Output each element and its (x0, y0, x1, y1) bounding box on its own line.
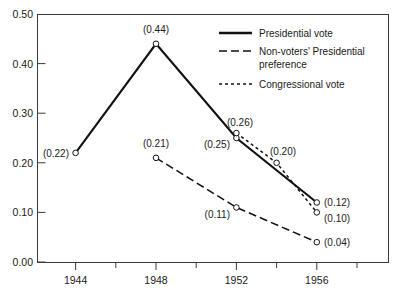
legend-item-nonvoters-preference: Non-voters' Presidential preference (219, 46, 365, 70)
y-tick-label: 0.00 (13, 256, 34, 268)
y-tick-group-3: 0.30 (13, 107, 46, 119)
y-tick-label: 0.50 (13, 8, 34, 20)
data-point-marker (153, 41, 159, 47)
x-tick-group-2: 1952 (225, 262, 249, 286)
chart-legend: Presidential vote Non-voters' Presidenti… (219, 28, 365, 90)
line-chart: 0.00 0.10 0.20 0.30 0.40 0.50 (0, 0, 402, 297)
y-tick-group-5: 0.50 (13, 8, 34, 20)
y-tick-group-4: 0.40 (13, 58, 46, 70)
x-tick-label: 1956 (305, 274, 329, 286)
legend-item-congressional-vote: Congressional vote (219, 79, 345, 90)
y-tick-label: 0.30 (13, 107, 34, 119)
data-point-marker (314, 200, 320, 206)
y-axis: 0.00 0.10 0.20 0.30 0.40 0.50 (13, 8, 46, 268)
x-tick-group-0: 1944 (64, 262, 88, 286)
data-point-label: (0.22) (43, 148, 69, 159)
data-point-marker (314, 239, 320, 245)
data-point-label: (0.10) (324, 213, 350, 224)
nonvoters-preference-line (156, 158, 317, 242)
x-tick-group-3: 1956 (305, 262, 329, 286)
data-point-label: (0.12) (324, 197, 350, 208)
x-tick-label: 1952 (225, 274, 249, 286)
legend-label: Presidential vote (259, 28, 333, 39)
data-point-label: (0.20) (270, 146, 296, 157)
x-tick-label: 1948 (144, 274, 168, 286)
data-point-label: (0.26) (227, 117, 253, 128)
data-point-marker (234, 205, 240, 211)
legend-item-presidential-vote: Presidential vote (219, 28, 333, 39)
legend-label: Non-voters' Presidential (259, 46, 365, 57)
y-tick-label: 0.20 (13, 157, 34, 169)
y-tick-label: 0.40 (13, 58, 34, 70)
x-tick-group-1: 1948 (144, 262, 168, 286)
data-point-marker (274, 160, 280, 166)
congressional-vote-line (236, 133, 316, 212)
data-point-marker (234, 130, 240, 136)
x-tick-label: 1944 (64, 274, 88, 286)
x-axis: 1944 1948 1952 1956 (64, 262, 357, 286)
y-tick-group-0: 0.00 (13, 256, 46, 268)
y-tick-label: 0.10 (13, 206, 34, 218)
data-point-marker (314, 210, 320, 216)
y-tick-group-2: 0.20 (13, 157, 46, 169)
data-point-label: (0.04) (324, 237, 350, 248)
data-point-marker (153, 155, 159, 161)
y-tick-group-1: 0.10 (13, 206, 46, 218)
data-point-label: (0.25) (204, 139, 230, 150)
chart-container: 0.00 0.10 0.20 0.30 0.40 0.50 (0, 0, 402, 297)
legend-label-continuation: preference (259, 59, 307, 70)
legend-label: Congressional vote (259, 79, 345, 90)
series-nonvoters-preference: (0.21) (0.11) (0.04) (143, 138, 350, 248)
data-point-label: (0.11) (205, 209, 230, 220)
data-point-label: (0.44) (143, 24, 169, 35)
data-point-label: (0.21) (143, 138, 169, 149)
data-point-marker (73, 150, 79, 156)
